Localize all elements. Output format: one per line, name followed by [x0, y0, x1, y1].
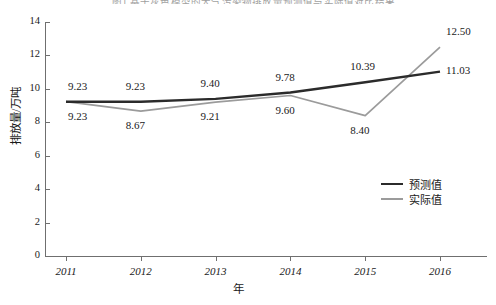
- data-label: 9.23: [126, 80, 145, 92]
- legend-label: 预测值: [409, 176, 442, 192]
- data-label: 10.39: [350, 60, 375, 72]
- data-label: 9.21: [201, 110, 220, 122]
- data-label: 12.50: [446, 25, 471, 37]
- data-label: 9.23: [68, 110, 87, 122]
- chart-legend: 预测值实际值: [381, 176, 461, 206]
- plot-lines: [0, 0, 496, 305]
- legend-line-icon: [381, 183, 403, 185]
- data-label: 9.78: [275, 71, 294, 83]
- data-label: 8.40: [350, 124, 369, 136]
- data-label: 9.40: [201, 77, 220, 89]
- data-label: 8.67: [126, 119, 145, 131]
- data-label: 11.03: [446, 64, 470, 76]
- series-line-预测值: [66, 72, 440, 102]
- legend-line-icon: [381, 198, 403, 200]
- data-label: 9.60: [275, 104, 294, 116]
- chart-figure: 图1 基于灰色模型的大气污染物排放量预测值与实际值对比结果 排放量/万吨 年 0…: [0, 0, 496, 305]
- legend-item: 实际值: [381, 191, 461, 206]
- legend-item: 预测值: [381, 176, 461, 191]
- series-line-实际值: [66, 47, 440, 116]
- legend-label: 实际值: [409, 191, 442, 207]
- data-label: 9.23: [68, 80, 87, 92]
